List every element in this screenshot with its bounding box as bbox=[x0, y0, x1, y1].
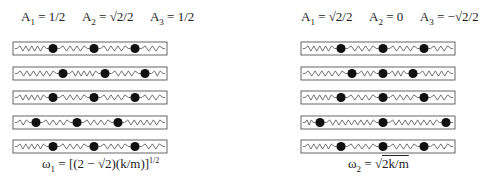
spring bbox=[388, 46, 420, 51]
spring bbox=[388, 120, 442, 125]
spring bbox=[58, 144, 90, 149]
spring bbox=[346, 95, 379, 100]
spring bbox=[15, 95, 48, 100]
mass bbox=[89, 44, 98, 53]
spring bbox=[41, 120, 73, 125]
left-row-5 bbox=[13, 140, 167, 153]
spring bbox=[15, 71, 58, 76]
mass bbox=[315, 118, 324, 127]
spring bbox=[303, 144, 336, 149]
mass bbox=[31, 118, 40, 127]
spring bbox=[99, 46, 131, 51]
spring bbox=[429, 46, 453, 51]
spring bbox=[388, 95, 420, 100]
mass bbox=[130, 44, 139, 53]
spring bbox=[346, 144, 379, 149]
spring bbox=[140, 95, 165, 100]
mass bbox=[336, 142, 345, 151]
mass bbox=[378, 118, 387, 127]
spring bbox=[303, 46, 336, 51]
spring bbox=[303, 120, 315, 125]
mass bbox=[419, 142, 428, 151]
right-row-4 bbox=[301, 116, 455, 129]
omega2-formula: ω2 = √2k/m bbox=[348, 156, 409, 174]
spring bbox=[58, 95, 90, 100]
spring bbox=[123, 120, 165, 125]
mass bbox=[378, 93, 387, 102]
spring bbox=[140, 46, 165, 51]
spring bbox=[99, 95, 131, 100]
spring bbox=[110, 71, 141, 76]
spring bbox=[15, 144, 48, 149]
spring bbox=[388, 144, 420, 149]
spring bbox=[82, 120, 114, 125]
mass bbox=[336, 93, 345, 102]
omega1-formula: ω1 = [(2 − √2)(k/m)]1/2 bbox=[42, 156, 159, 174]
spring bbox=[99, 144, 131, 149]
spring bbox=[325, 120, 379, 125]
spring bbox=[58, 46, 90, 51]
mass bbox=[140, 69, 149, 78]
mass bbox=[58, 69, 67, 78]
spring bbox=[418, 71, 453, 76]
right-row-1 bbox=[301, 42, 455, 55]
mass bbox=[336, 44, 345, 53]
mass bbox=[48, 142, 57, 151]
left-row-4 bbox=[13, 116, 167, 129]
spring bbox=[140, 144, 165, 149]
mass bbox=[48, 44, 57, 53]
left-row-3 bbox=[13, 91, 167, 104]
spring bbox=[303, 71, 347, 76]
mass bbox=[89, 142, 98, 151]
right-row-2 bbox=[301, 67, 455, 80]
mass bbox=[130, 93, 139, 102]
spring bbox=[15, 46, 48, 51]
mass bbox=[378, 69, 387, 78]
spring bbox=[357, 71, 379, 76]
mass bbox=[378, 44, 387, 53]
spring bbox=[429, 144, 453, 149]
mass bbox=[113, 118, 122, 127]
mass bbox=[441, 118, 450, 127]
spring bbox=[150, 71, 165, 76]
left-row-1 bbox=[13, 42, 167, 55]
spring bbox=[303, 95, 336, 100]
spring bbox=[346, 46, 379, 51]
mass bbox=[72, 118, 81, 127]
mass bbox=[89, 93, 98, 102]
left-row-2 bbox=[13, 67, 167, 80]
mass bbox=[130, 142, 139, 151]
spring bbox=[388, 71, 409, 76]
right-row-3 bbox=[301, 91, 455, 104]
mass bbox=[100, 69, 109, 78]
spring bbox=[15, 120, 31, 125]
mass bbox=[347, 69, 356, 78]
mass bbox=[378, 142, 387, 151]
mass bbox=[48, 93, 57, 102]
mass bbox=[419, 93, 428, 102]
spring bbox=[68, 71, 101, 76]
mass bbox=[408, 69, 417, 78]
spring bbox=[429, 95, 453, 100]
right-row-5 bbox=[301, 140, 455, 153]
mass bbox=[419, 44, 428, 53]
